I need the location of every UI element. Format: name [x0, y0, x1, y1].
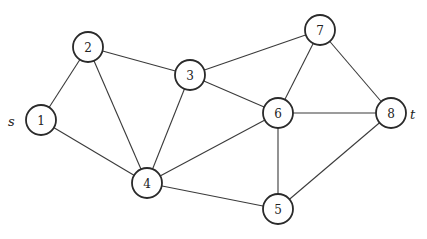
- node-label: 3: [186, 69, 194, 83]
- node-label: 4: [143, 177, 151, 191]
- node-3: 3: [175, 60, 205, 90]
- node-label: 1: [37, 114, 45, 128]
- node-label: 6: [274, 107, 282, 121]
- node-label: 8: [387, 107, 395, 121]
- source-label: s: [8, 114, 15, 129]
- node-2: 2: [73, 32, 103, 62]
- graph-diagram: 12345678 s t: [0, 0, 427, 239]
- edge-2-4: [88, 47, 147, 183]
- nodes: 12345678: [26, 15, 406, 224]
- node-7: 7: [305, 15, 335, 45]
- edge-4-6: [147, 113, 278, 183]
- edge-4-5: [147, 183, 278, 209]
- sink-label: t: [410, 107, 416, 122]
- edge-5-8: [278, 113, 391, 209]
- edge-7-8: [320, 30, 391, 113]
- node-8: 8: [376, 98, 406, 128]
- edge-3-4: [147, 75, 190, 183]
- node-1: 1: [26, 105, 56, 135]
- node-5: 5: [263, 194, 293, 224]
- node-label: 5: [274, 203, 282, 217]
- node-4: 4: [132, 168, 162, 198]
- node-label: 2: [84, 41, 92, 55]
- node-6: 6: [263, 98, 293, 128]
- edge-1-4: [41, 120, 147, 183]
- node-label: 7: [316, 24, 324, 38]
